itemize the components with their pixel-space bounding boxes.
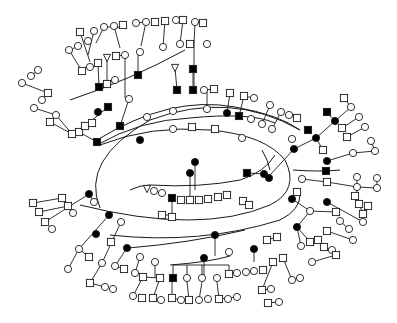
male-square-icon bbox=[138, 294, 145, 301]
male-square-icon bbox=[35, 208, 42, 215]
affected-male-square-icon bbox=[134, 71, 141, 78]
female-circle-icon bbox=[308, 258, 315, 265]
female-circle-icon bbox=[131, 269, 138, 276]
affected-male-square-icon bbox=[189, 86, 196, 93]
female-circle-icon bbox=[203, 40, 210, 47]
male-square-icon bbox=[168, 213, 175, 220]
male-square-icon bbox=[245, 201, 252, 208]
female-circle-icon bbox=[373, 174, 380, 181]
female-circle-icon bbox=[191, 18, 198, 25]
male-square-icon bbox=[177, 196, 184, 203]
female-circle-icon bbox=[288, 276, 295, 283]
female-circle-icon bbox=[258, 120, 265, 127]
female-circle-icon bbox=[38, 96, 45, 103]
male-square-icon bbox=[46, 118, 53, 125]
affected-male-square-icon bbox=[304, 126, 311, 133]
affected-female-circle-icon bbox=[323, 198, 330, 205]
female-circle-icon bbox=[347, 103, 354, 110]
sibship-arc bbox=[96, 107, 300, 208]
male-square-icon bbox=[161, 17, 168, 24]
male-square-icon bbox=[58, 194, 65, 201]
female-circle-icon bbox=[288, 135, 295, 142]
male-square-icon bbox=[199, 19, 206, 26]
male-square-icon bbox=[279, 254, 286, 261]
male-square-icon bbox=[323, 227, 330, 234]
affected-female-circle-icon bbox=[200, 254, 207, 261]
female-circle-icon bbox=[233, 269, 240, 276]
male-square-icon bbox=[107, 238, 114, 245]
female-circle-icon bbox=[27, 72, 34, 79]
female-circle-icon bbox=[74, 42, 81, 49]
sibship-arc bbox=[170, 256, 230, 265]
affected-female-circle-icon bbox=[323, 157, 330, 164]
female-circle-icon bbox=[100, 23, 107, 30]
affected-female-circle-icon bbox=[123, 244, 130, 251]
female-circle-icon bbox=[361, 123, 368, 130]
male-square-icon bbox=[119, 21, 126, 28]
male-square-icon bbox=[149, 294, 156, 301]
female-circle-icon bbox=[64, 265, 71, 272]
male-square-icon bbox=[273, 233, 280, 240]
female-circle-icon bbox=[75, 245, 82, 252]
affected-male-square-icon bbox=[173, 86, 180, 93]
male-square-icon bbox=[332, 251, 339, 258]
female-circle-icon bbox=[225, 248, 232, 255]
female-circle-icon bbox=[336, 217, 343, 224]
female-circle-icon bbox=[169, 107, 176, 114]
sibship-arc bbox=[293, 170, 340, 171]
affected-female-circle-icon bbox=[136, 136, 143, 143]
female-circle-icon bbox=[157, 296, 164, 303]
pedigree-chart bbox=[0, 0, 397, 323]
affected-female-circle-icon bbox=[223, 109, 230, 116]
female-circle-icon bbox=[129, 292, 136, 299]
male-square-icon bbox=[158, 211, 165, 218]
female-circle-icon bbox=[238, 134, 245, 141]
affected-male-square-icon bbox=[323, 108, 330, 115]
male-square-icon bbox=[86, 279, 93, 286]
female-circle-icon bbox=[250, 267, 257, 274]
male-square-icon bbox=[293, 188, 300, 195]
male-square-icon bbox=[188, 123, 195, 130]
male-square-icon bbox=[259, 266, 266, 273]
female-circle-icon bbox=[345, 225, 352, 232]
affected-female-circle-icon bbox=[94, 108, 101, 115]
pedigree-diagram bbox=[0, 0, 397, 323]
male-square-icon bbox=[225, 270, 232, 277]
affected-male-square-icon bbox=[168, 194, 175, 201]
affected-female-circle-icon bbox=[312, 134, 319, 141]
female-circle-icon bbox=[169, 125, 176, 132]
male-square-icon bbox=[338, 124, 345, 131]
male-square-icon bbox=[186, 40, 193, 47]
female-circle-icon bbox=[136, 48, 143, 55]
affected-male-square-icon bbox=[189, 65, 196, 72]
male-square-icon bbox=[332, 208, 339, 215]
male-square-icon bbox=[314, 236, 321, 243]
affected-male-square-icon bbox=[93, 138, 100, 145]
female-circle-icon bbox=[125, 95, 132, 102]
female-circle-icon bbox=[373, 184, 380, 191]
female-circle-icon bbox=[101, 283, 108, 290]
male-square-icon bbox=[103, 80, 110, 87]
descent-line bbox=[39, 206, 68, 212]
male-square-icon bbox=[29, 199, 36, 206]
female-circle-icon bbox=[200, 86, 207, 93]
female-circle-icon bbox=[111, 76, 118, 83]
affected-male-square-icon bbox=[243, 169, 250, 176]
male-square-icon bbox=[214, 193, 221, 200]
male-square-icon bbox=[179, 16, 186, 23]
female-circle-icon bbox=[69, 209, 76, 216]
male-square-icon bbox=[359, 210, 366, 217]
female-circle-icon bbox=[177, 296, 184, 303]
female-circle-icon bbox=[159, 43, 166, 50]
female-circle-icon bbox=[349, 236, 356, 243]
female-circle-icon bbox=[30, 104, 37, 111]
descent-line bbox=[120, 99, 129, 126]
male-square-icon bbox=[343, 133, 350, 140]
male-square-icon bbox=[263, 236, 270, 243]
male-square-icon bbox=[340, 94, 347, 101]
female-circle-icon bbox=[266, 101, 273, 108]
descent-line bbox=[327, 182, 357, 187]
female-circle-icon bbox=[275, 298, 282, 305]
male-square-icon bbox=[185, 296, 192, 303]
female-circle-icon bbox=[98, 259, 105, 266]
